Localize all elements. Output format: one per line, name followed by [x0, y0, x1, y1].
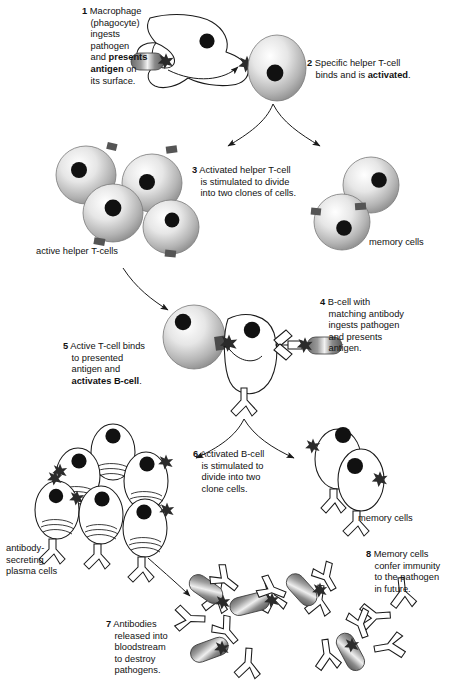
step-6-caption: 6 Activated B-cell is stimulated to divi… [193, 449, 293, 495]
step-1-l3: pathogen [91, 41, 130, 51]
step-2-caption: 2 Specific helper T-cell binds and is ac… [307, 58, 437, 81]
step-7-l1: released into [115, 631, 168, 641]
step-4-caption: 4 B-cell with matching antibody ingests … [320, 297, 432, 355]
immunology-diagram: 1 Macrophage (phagocyte) ingests pathoge… [0, 0, 455, 692]
plasma-cell [79, 486, 123, 569]
step-7-caption: 7 Antibodies released into bloodstream t… [106, 619, 186, 677]
step-4-number: 4 [320, 297, 325, 307]
active-helper-t-cells-cluster [56, 142, 199, 258]
t-cell-clone [83, 184, 143, 246]
step-8-caption: 8 Memory cells confer immunity to the pa… [366, 549, 455, 595]
step-1-l6: its surface. [91, 76, 136, 86]
step-1-number: 1 [82, 6, 87, 16]
step-4-l3: and presents [329, 332, 383, 342]
step-8-l1: confer immunity [375, 561, 441, 571]
step-5-bold-activates: activates B-cell [72, 376, 140, 386]
step-3-l1: is stimulated to divide [201, 177, 290, 187]
label-active-helper-t-cells: active helper T-cells [36, 246, 118, 258]
step-2-bold-activated: activated [368, 70, 408, 80]
step-7-l4: pathogens. [115, 665, 161, 675]
t-cell-clone [143, 200, 199, 258]
step-7-number: 7 [106, 619, 111, 629]
memory-t-cell [311, 194, 370, 250]
plasma-cell [123, 499, 174, 582]
macrophage [137, 15, 248, 88]
step-6-l0: Activated B-cell [200, 449, 264, 459]
nucleus [199, 33, 214, 48]
step-3-caption: 3 Activated helper T-cell is stimulated … [192, 165, 317, 200]
step-4-l0: B-cell with [328, 297, 370, 307]
step-5-caption: 5 Active T-cell binds to presented antig… [63, 341, 171, 387]
label-plasma-cells-l0: antibody- [6, 543, 44, 553]
step-3-l0: Activated helper T-cell [199, 165, 290, 175]
step-8-l0: Memory cells [374, 549, 429, 559]
label-plasma-cells-l2: plasma cells [6, 566, 57, 576]
step-3-l2: into two clones of cells. [201, 188, 297, 198]
nucleus [244, 322, 260, 338]
step-6-l2: divide into two [202, 472, 261, 482]
b-cell [224, 315, 276, 394]
step-3-number: 3 [192, 165, 197, 175]
step-1-l1: (phagocyte) [91, 18, 140, 28]
nucleus [267, 65, 284, 82]
active-t-cell-binding [163, 305, 228, 369]
step-2-l0: Specific helper T-cell [315, 58, 401, 68]
step-6-l1: is stimulated to [202, 461, 264, 471]
step-4-l1: matching antibody [329, 309, 404, 319]
step-8-l3: in future. [375, 584, 411, 594]
helper-t-cell [248, 35, 306, 101]
step-1-l0: Macrophage [90, 6, 142, 16]
arrow-to-bcell-binding [123, 268, 168, 310]
pathogen-bound [186, 570, 368, 674]
step-5-number: 5 [63, 341, 68, 351]
step-7-l3: to destroy [115, 654, 156, 664]
step-4-l2: ingests pathogen [329, 320, 400, 330]
step-8-number: 8 [366, 549, 371, 559]
step-7-l0: Antibodies [113, 619, 156, 629]
step-6-l3: clone cells. [202, 484, 248, 494]
step-5-l2: antigen and [72, 364, 121, 374]
step-2-number: 2 [307, 58, 312, 68]
step-6-number: 6 [193, 449, 198, 459]
step-1-bold-presents: presents [109, 52, 148, 62]
label-memory-cells-b: memory cells [358, 513, 413, 525]
label-plasma-cells-l1: secreting [6, 555, 44, 565]
step-7-l2: bloodstream [115, 642, 166, 652]
label-memory-cells-t: memory cells [369, 237, 424, 249]
step-1-bold-antigen: antigen [91, 64, 124, 74]
step-4-l4: antigen. [329, 343, 362, 353]
step-8-l2: to the pathogen [375, 572, 440, 582]
step-1-caption: 1 Macrophage (phagocyte) ingests pathoge… [82, 6, 148, 87]
step-1-l2: ingests [91, 29, 120, 39]
step-5-l1: to presented [72, 353, 124, 363]
arrow-fork-division-t [228, 104, 320, 146]
label-plasma-cells: antibody- secreting plasma cells [6, 543, 68, 578]
step-5-l0: Active T-cell binds [70, 341, 145, 351]
b-cell-antibody-receptor [274, 330, 302, 360]
